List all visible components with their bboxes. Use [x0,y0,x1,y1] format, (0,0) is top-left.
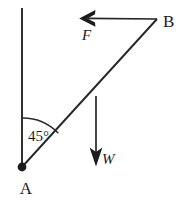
angle-label-45: 45° [28,128,49,144]
diagram-canvas: A B 45° F W [0,0,186,203]
force-label-w: W [102,151,116,167]
point-marker-a [18,163,27,172]
point-label-b: B [163,12,174,31]
force-f-shaft [88,18,157,19]
point-label-a: A [20,179,33,198]
force-diagram-figure: A B 45° F W [0,0,186,203]
force-label-f: F [81,27,92,43]
